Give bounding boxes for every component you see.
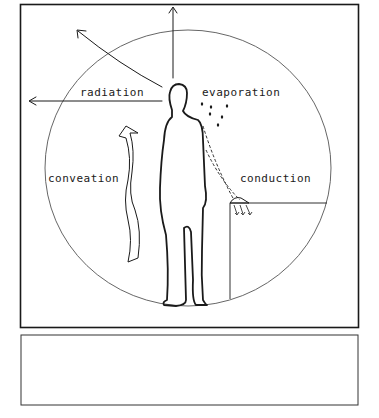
table-surface bbox=[230, 203, 327, 299]
conduction-arm bbox=[203, 126, 240, 200]
heat-loss-diagram: radiation evaporation conveation conduct… bbox=[0, 0, 379, 418]
evaporation-droplets bbox=[201, 102, 228, 127]
label-convection: conveation bbox=[48, 172, 119, 185]
label-evaporation: evaporation bbox=[202, 86, 280, 99]
label-radiation: radiation bbox=[80, 86, 144, 99]
human-figure bbox=[160, 84, 207, 306]
label-conduction: conduction bbox=[240, 172, 311, 185]
convection-arrow bbox=[119, 126, 139, 262]
hand-outline bbox=[230, 198, 249, 203]
caption-box bbox=[21, 335, 358, 405]
main-frame bbox=[21, 5, 359, 328]
enclosure-circle bbox=[45, 30, 331, 306]
conduction-heat-arrows bbox=[234, 205, 252, 215]
